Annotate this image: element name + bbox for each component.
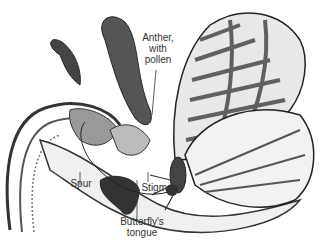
label-anther-line3: pollen <box>138 54 178 65</box>
label-stigma: Stigma <box>140 182 174 193</box>
label-tongue-line1: Butterfly's <box>112 216 172 227</box>
label-anther-line2: with <box>138 43 178 54</box>
label-spur: Spur <box>68 178 94 189</box>
label-anther-line1: Anther, <box>138 32 178 43</box>
anther-leader <box>152 70 156 115</box>
label-anther: Anther, with pollen <box>138 32 178 65</box>
label-tongue: Butterfly's tongue <box>112 216 172 238</box>
label-tongue-line2: tongue <box>112 227 172 238</box>
flower-interior <box>100 176 140 215</box>
